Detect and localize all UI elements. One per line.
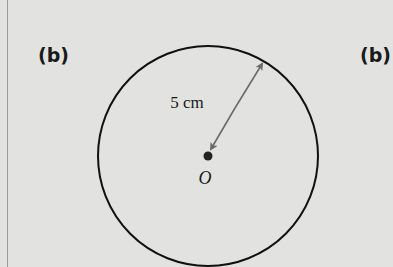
circle-diagram: 5 cm O bbox=[0, 0, 393, 267]
radius-label: 5 cm bbox=[170, 93, 204, 112]
radius-arrow-lower bbox=[211, 108, 235, 149]
diagram-canvas: (b) (b) 5 cm O bbox=[0, 0, 393, 267]
radius-arrow bbox=[235, 64, 262, 108]
center-label: O bbox=[199, 168, 212, 188]
center-dot bbox=[204, 152, 213, 161]
